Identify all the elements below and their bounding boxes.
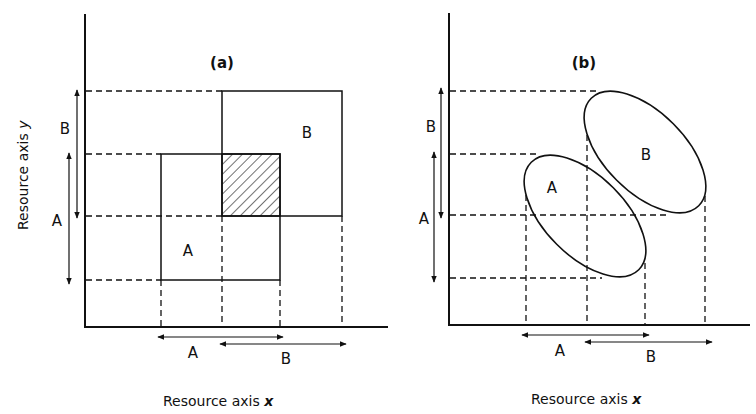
panel-a-y-range-b-label: B: [60, 120, 70, 138]
panel-a-overlap-region: [222, 154, 280, 216]
panel-a: (a) B A B A A B Re: [15, 14, 388, 409]
panel-a-y-axis-label: Resource axis y: [15, 120, 31, 230]
panel-a-niche-b-label: B: [302, 124, 312, 142]
panel-b-x-range-a-label: A: [555, 342, 566, 360]
panel-a-niche-a-label: A: [183, 242, 194, 260]
panel-b-x-axis-label: Resource axis x: [531, 391, 642, 407]
panel-a-title: (a): [210, 54, 234, 72]
panel-b: (b) A B B A A B Resource axis x: [419, 13, 750, 407]
panel-b-niche-b-label: B: [641, 146, 651, 164]
panel-b-niche-a-label: A: [547, 179, 558, 197]
panel-b-x-range-b-label: B: [646, 348, 656, 366]
panel-b-y-range-a-label: A: [419, 210, 430, 228]
panel-b-title: (b): [572, 54, 596, 72]
niche-overlap-diagram: (a) B A B A A B Re: [0, 0, 756, 414]
panel-b-guides: [450, 91, 705, 324]
panel-a-x-axis-label: Resource axis x: [163, 393, 274, 409]
panel-a-x-range-b-label: B: [281, 350, 291, 368]
panel-a-y-range-a-label: A: [52, 212, 63, 230]
panel-a-x-range-a-label: A: [188, 344, 199, 362]
panel-b-y-range-b-label: B: [426, 118, 436, 136]
